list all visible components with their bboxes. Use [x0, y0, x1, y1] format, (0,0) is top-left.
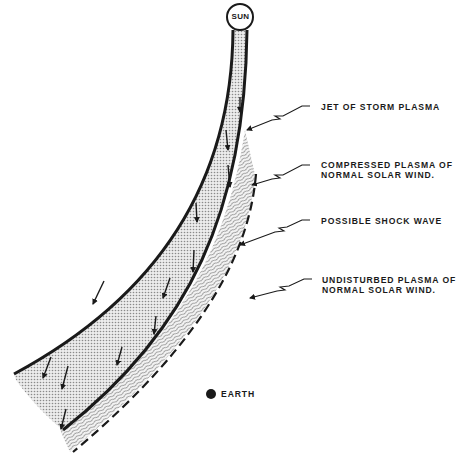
label-undisturbed-plasma: UNDISTURBED PLASMA OF NORMAL SOLAR WIND. [322, 275, 456, 295]
label-possible-shock-wave: POSSIBLE SHOCK WAVE [321, 216, 442, 226]
label-jet-of-storm-plasma: JET OF STORM PLASMA [321, 102, 440, 112]
earth-label: EARTH [221, 389, 255, 399]
label-compressed-plasma: COMPRESSED PLASMA OF NORMAL SOLAR WIND. [321, 160, 453, 180]
sun-label: SUN [227, 12, 254, 21]
earth-icon [206, 389, 216, 399]
